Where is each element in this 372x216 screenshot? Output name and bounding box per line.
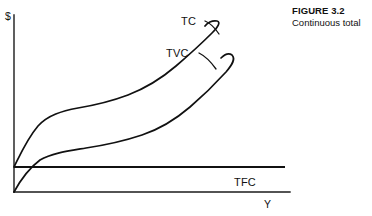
tvc-leader-line	[199, 53, 216, 69]
x-axis-label: Y	[264, 198, 271, 210]
cost-curves-chart: TC TVC TFC $ Y	[0, 0, 300, 216]
tvc-curve	[14, 54, 234, 192]
tc-curve	[14, 21, 219, 167]
y-axis-label: $	[5, 10, 11, 22]
tfc-label: TFC	[234, 176, 256, 188]
tc-label: TC	[181, 15, 196, 27]
figure-number: FIGURE 3.2	[292, 5, 372, 16]
figure-container: TC TVC TFC $ Y FIGURE 3.2 Continuous tot…	[0, 0, 372, 216]
tvc-label: TVC	[166, 47, 189, 59]
figure-caption: FIGURE 3.2 Continuous total	[292, 5, 372, 28]
figure-description: Continuous total	[292, 17, 372, 28]
